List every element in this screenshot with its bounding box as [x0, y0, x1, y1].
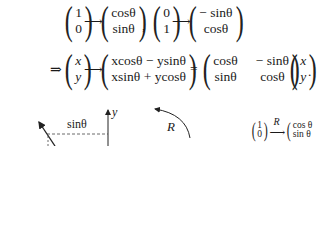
right-paren: ): [264, 120, 268, 140]
tgt-bottom: sin θ: [293, 130, 313, 139]
mapping-arrow: R ⟶: [269, 120, 285, 140]
left-paren: (: [252, 120, 256, 140]
src-bottom: 0: [257, 130, 262, 139]
arrow-glyph: ⟶: [269, 126, 285, 139]
sin-theta-label: sinθ: [67, 117, 87, 132]
y-axis-label: y: [112, 105, 117, 120]
mapping-formula: ( 1 0 ) R ⟶ ( cos θ sin θ: [250, 120, 312, 140]
rotation-label: R: [167, 119, 175, 135]
left-paren: (: [287, 120, 291, 140]
